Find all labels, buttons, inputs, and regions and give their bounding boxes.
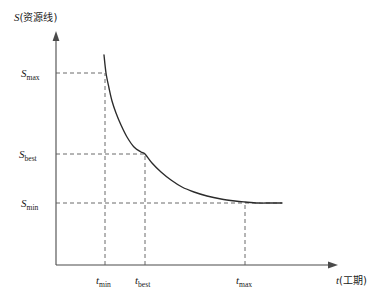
- x-tick-label-tmax: tmax: [236, 274, 252, 289]
- y-tick-label-sbest: Sbest: [19, 148, 38, 163]
- y-tick-label-smax: Smax: [21, 67, 40, 82]
- y-tick-label-smin: Smin: [21, 197, 39, 212]
- x-tick-label-tmin: tmin: [96, 274, 111, 289]
- resource-duration-chart: S(资源线) t(工期) Smax Sbest Smin tmin tbest …: [0, 0, 385, 307]
- y-axis-arrow-icon: [53, 31, 60, 41]
- x-tick-label-tbest: tbest: [135, 274, 151, 289]
- chart-svg: S(资源线) t(工期) Smax Sbest Smin tmin tbest …: [0, 0, 385, 307]
- y-axis-label: S(资源线): [14, 11, 57, 23]
- x-axis-arrow-icon: [328, 262, 338, 269]
- x-axis-label: t(工期): [336, 274, 367, 286]
- resource-curve: [104, 55, 282, 203]
